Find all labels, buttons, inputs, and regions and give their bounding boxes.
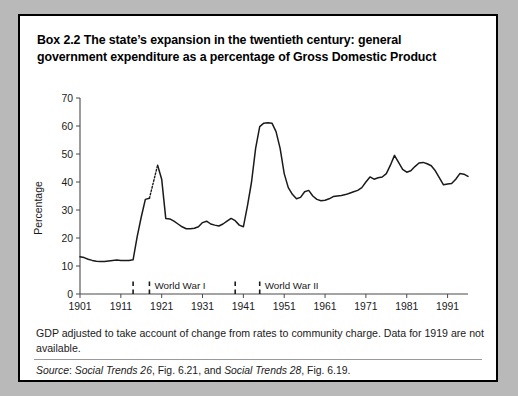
expenditure-series-missing-1919 — [149, 165, 157, 198]
expenditure-line-chart: Percentage 010203040506070 1901191119211… — [28, 90, 492, 318]
x-tick-label: 1981 — [395, 301, 418, 312]
y-tick-label: 60 — [61, 121, 73, 132]
source-label: Source — [36, 365, 69, 376]
box-note: GDP adjusted to take account of change f… — [36, 326, 484, 355]
x-tick-label: 1971 — [354, 301, 377, 312]
y-tick-label: 70 — [61, 93, 73, 104]
x-tick-label: 1941 — [232, 301, 255, 312]
y-tick-label: 30 — [61, 205, 73, 216]
chart-figure: Percentage 010203040506070 1901191119211… — [28, 90, 492, 318]
war-annotations: World War IWorld War II — [133, 280, 319, 294]
source-publication-2: Social Trends 28 — [224, 365, 301, 376]
source-publication-1: Social Trends 26 — [75, 365, 152, 376]
y-axis-ticks: 010203040506070 — [61, 93, 80, 300]
x-tick-label: 1951 — [273, 301, 296, 312]
x-tick-label: 1921 — [150, 301, 173, 312]
x-tick-label: 1991 — [436, 301, 459, 312]
x-tick-label: 1961 — [313, 301, 336, 312]
x-tick-label: 1901 — [68, 301, 91, 312]
source-figure-1: , Fig. 6.21, and — [152, 365, 224, 376]
note-divider — [34, 359, 482, 360]
x-tick-label: 1911 — [110, 301, 133, 312]
war-annotation-label: World War II — [265, 280, 319, 291]
x-axis-ticks: 1901191119211931194119511961197119811991 — [68, 294, 459, 312]
war-annotation-label: World War I — [154, 280, 205, 291]
y-tick-label: 0 — [67, 289, 73, 300]
y-axis-title: Percentage — [32, 181, 44, 235]
box-panel: Box 2.2 The state’s expansion in the twe… — [18, 14, 498, 382]
x-tick-label: 1931 — [191, 301, 214, 312]
source-figure-2: , Fig. 6.19. — [301, 365, 350, 376]
box-source: Source: Social Trends 26, Fig. 6.21, and… — [36, 364, 484, 378]
expenditure-series-line — [80, 123, 468, 262]
y-tick-label: 20 — [61, 233, 73, 244]
y-tick-label: 40 — [61, 177, 73, 188]
y-tick-label: 10 — [61, 261, 73, 272]
y-axis-title-text: Percentage — [32, 181, 44, 235]
y-tick-label: 50 — [61, 149, 73, 160]
box-title: Box 2.2 The state’s expansion in the twe… — [37, 32, 465, 65]
